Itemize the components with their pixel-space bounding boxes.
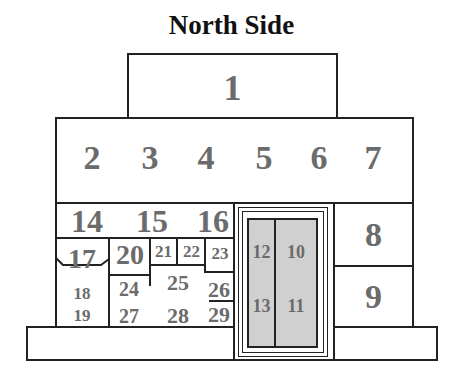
- section-10-label: 10: [276, 243, 316, 261]
- section-17-label: 17: [62, 245, 102, 273]
- section-4-label: 4: [186, 141, 226, 175]
- diagram-title: North Side: [0, 10, 463, 41]
- section-18-label: 18: [62, 285, 102, 302]
- section-26-label: 26: [203, 279, 235, 301]
- section-12-label: 12: [248, 243, 275, 261]
- section-15-label: 15: [127, 205, 177, 237]
- section-23-label: 23: [206, 245, 234, 262]
- section-13-label: 13: [248, 297, 275, 315]
- section-9-label: 9: [333, 280, 414, 314]
- section-24-label: 24: [110, 279, 148, 299]
- section-27-label: 27: [110, 306, 148, 326]
- section-8-label: 8: [333, 218, 414, 252]
- section-20-label: 20: [110, 241, 150, 269]
- section-1-label: 1: [127, 70, 338, 106]
- section-11-label: 11: [276, 297, 316, 315]
- divider: [204, 271, 234, 273]
- section-3-label: 3: [130, 141, 170, 175]
- section-21-label: 21: [150, 243, 177, 260]
- section-19-label: 19: [62, 307, 102, 324]
- base-box: [26, 326, 438, 361]
- section-5-label: 5: [244, 141, 284, 175]
- divider: [108, 274, 151, 276]
- section-14-label: 14: [62, 205, 112, 237]
- section-22-label: 22: [178, 243, 205, 260]
- door-panel-left: [247, 218, 276, 348]
- door-panel-right: [274, 218, 318, 348]
- section-7-label: 7: [353, 141, 393, 175]
- section-6-label: 6: [299, 141, 339, 175]
- section-16-label: 16: [188, 205, 238, 237]
- section-25-label: 25: [158, 272, 198, 294]
- section-28-label: 28: [158, 305, 198, 327]
- section-29-label: 29: [203, 304, 235, 326]
- section-2-label: 2: [72, 141, 112, 175]
